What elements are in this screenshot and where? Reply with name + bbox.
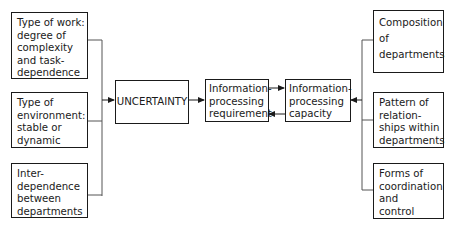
box-line: stable or <box>17 122 82 135</box>
box-type-of-work: Type of work: degree of complexity and t… <box>11 12 88 79</box>
box-interdependence: Inter- dependence between departments <box>11 163 88 218</box>
box-line: departments <box>379 47 438 63</box>
box-composition-of-departments: Composition of departments <box>373 10 444 73</box>
box-line: processing <box>289 96 347 109</box>
box-line: requirement <box>209 108 265 121</box>
box-line: relation- <box>379 110 438 123</box>
box-line: departments <box>379 135 438 148</box>
box-info-processing-capacity: Information- processing capacity <box>285 79 351 122</box>
box-pattern-of-relationships: Pattern of relation- ships within depart… <box>373 92 444 148</box>
box-info-processing-requirement: Information- processing requirement <box>205 79 269 122</box>
box-line: processing <box>209 96 265 109</box>
box-line: capacity <box>289 108 347 121</box>
box-line: of <box>379 31 438 47</box>
box-line: Composition <box>379 15 438 31</box>
box-line: Type of <box>17 97 82 110</box>
box-line: departments <box>17 206 82 219</box>
box-line: environment: <box>17 110 82 123</box>
box-line: Type of work: <box>17 17 82 30</box>
box-line: complexity <box>17 42 82 55</box>
box-line: control <box>379 206 438 219</box>
box-uncertainty: UNCERTAINTY <box>115 80 189 124</box>
box-line: Pattern of <box>379 97 438 110</box>
uncertainty-label: UNCERTAINTY <box>117 96 187 109</box>
box-line: Information- <box>289 83 347 96</box>
box-line: ships within <box>379 122 438 135</box>
box-line: and task- <box>17 55 82 68</box>
box-line: dependence <box>17 181 82 194</box>
box-line: between <box>17 193 82 206</box>
box-line: Inter- <box>17 168 82 181</box>
box-line: and <box>379 193 438 206</box>
box-line: dynamic <box>17 135 82 148</box>
box-forms-of-coordination: Forms of coordination and control <box>373 163 444 219</box>
box-line: Forms of <box>379 168 438 181</box>
box-line: degree of <box>17 30 82 43</box>
box-line: Information- <box>209 83 265 96</box>
box-type-of-environment: Type of environment: stable or dynamic <box>11 92 88 148</box>
box-line: coordination <box>379 181 438 194</box>
box-line: dependence <box>17 67 82 80</box>
